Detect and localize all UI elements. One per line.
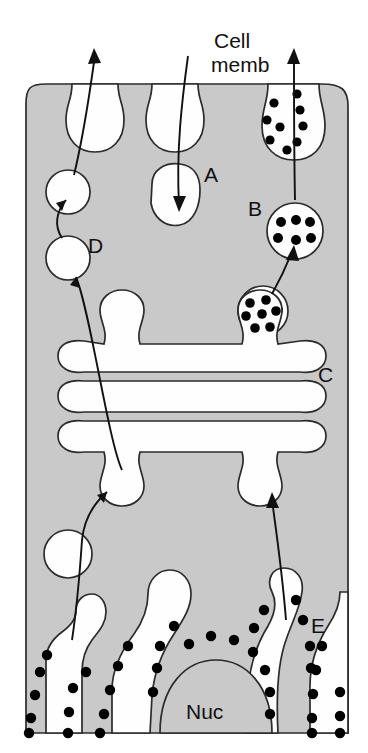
vesicle-lower-left (44, 530, 92, 578)
label-b: B (248, 197, 262, 220)
cell-secretory-pathway-diagram: Cell memb A D (0, 0, 368, 753)
arrow-exocytosis-right (294, 62, 295, 200)
label-e: E (311, 614, 325, 637)
label-a: A (204, 163, 218, 186)
vesicle-left-middle (46, 236, 90, 280)
label-c: C (318, 363, 333, 386)
endocytic-pit-middle (146, 84, 204, 152)
cell-membrane-label-line2: memb (211, 53, 269, 76)
vesicle-left-upper (46, 170, 90, 214)
endocytic-pit-left (66, 84, 124, 152)
label-d: D (88, 234, 103, 257)
cell-membrane-label-line1: Cell (214, 29, 250, 52)
vesicle-a (151, 164, 200, 226)
diagram-canvas: Cell memb A D (0, 0, 368, 753)
cell-membrane-label: Cell memb (211, 29, 269, 76)
arrowhead-exocytosis-left (88, 48, 101, 64)
arrowhead-exocytosis-right (287, 48, 300, 64)
nucleus-label: Nuc (186, 700, 223, 723)
